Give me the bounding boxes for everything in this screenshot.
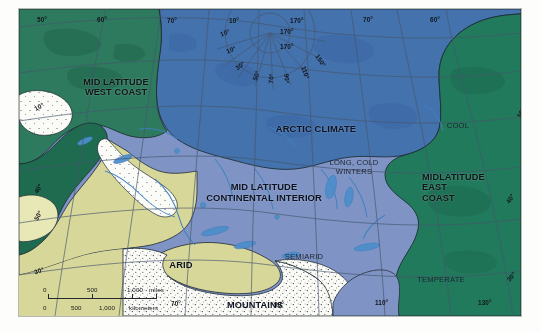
map-artwork xyxy=(19,9,521,316)
map-canvas xyxy=(19,9,521,316)
map-frame: MID LATITUDE WEST COAST ARCTIC CLIMATE M… xyxy=(19,9,521,316)
climate-map-figure: MID LATITUDE WEST COAST ARCTIC CLIMATE M… xyxy=(0,0,540,333)
